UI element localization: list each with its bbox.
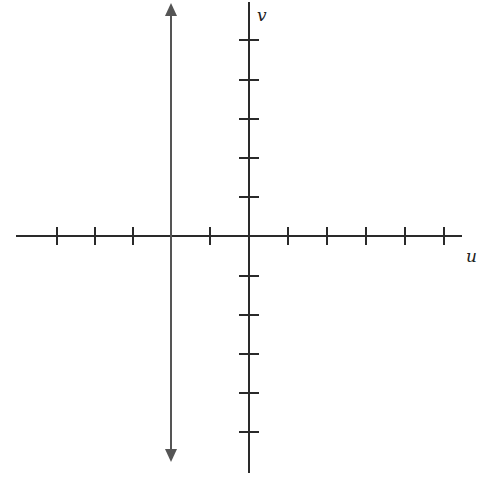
arrow-up-icon: [165, 3, 177, 16]
arrow-down-icon: [165, 449, 177, 462]
uv-plane-diagram: v u: [0, 0, 484, 478]
v-axis-label: v: [257, 5, 267, 25]
u-axis-label: u: [466, 246, 477, 266]
